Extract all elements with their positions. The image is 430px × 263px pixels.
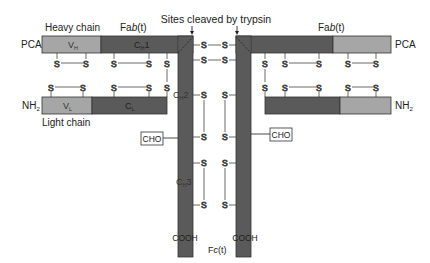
- svg-text:S: S: [201, 40, 207, 50]
- right-fab-label: Fab(t): [318, 22, 345, 33]
- left-fab-label: Fab(t): [120, 22, 147, 33]
- right-vl-domain: [340, 97, 391, 114]
- right-cooh-label: COOH: [232, 233, 258, 243]
- svg-text:S: S: [146, 83, 152, 93]
- svg-text:S: S: [222, 132, 228, 142]
- svg-text:S: S: [146, 59, 152, 69]
- svg-text:S: S: [282, 83, 288, 93]
- svg-text:S: S: [345, 83, 351, 93]
- svg-text:S: S: [222, 200, 228, 210]
- svg-text:S: S: [222, 158, 228, 168]
- right-cho-label: CHO: [272, 130, 291, 140]
- right-cl-domain: [265, 97, 340, 114]
- trypsin-arrow-right-icon: [235, 26, 239, 35]
- svg-text:S: S: [164, 59, 170, 69]
- right-heavy-stem: [236, 36, 251, 257]
- svg-text:S: S: [201, 90, 207, 100]
- svg-text:S: S: [282, 59, 288, 69]
- svg-text:S: S: [222, 90, 228, 100]
- svg-text:S: S: [201, 132, 207, 142]
- left-light-disulfides: SS SS: [48, 83, 152, 97]
- svg-text:S: S: [373, 83, 379, 93]
- svg-text:S: S: [111, 83, 117, 93]
- right-heavy-pca-label: PCA: [395, 39, 416, 50]
- right-light-disulfides: SS SS: [282, 83, 379, 97]
- svg-text:S: S: [222, 40, 228, 50]
- svg-text:S: S: [48, 83, 54, 93]
- left-heavy-stem: [178, 36, 193, 257]
- svg-text:S: S: [262, 59, 268, 69]
- svg-text:S: S: [83, 59, 89, 69]
- svg-text:S: S: [373, 59, 379, 69]
- left-heavy-pca-label: PCA: [21, 39, 42, 50]
- fc-label: Fc(t): [208, 245, 227, 255]
- trypsin-sites-title: Sites cleaved by trypsin: [161, 13, 271, 25]
- hinge-disulfides: S S S S: [193, 40, 236, 65]
- heavy-chain-label: Heavy chain: [45, 22, 100, 33]
- left-cooh-label: COOH: [172, 233, 198, 243]
- svg-text:S: S: [262, 83, 268, 93]
- svg-text:S: S: [345, 59, 351, 69]
- left-cho-label: CHO: [143, 134, 162, 144]
- trypsin-arrow-left-icon: [190, 26, 194, 35]
- right-light-nh2-label: NH2: [395, 100, 413, 112]
- right-vh-domain: [333, 36, 391, 53]
- antibody-structure-diagram: Sites cleaved by trypsin Heavy chain Fab…: [0, 0, 430, 263]
- svg-text:S: S: [316, 59, 322, 69]
- svg-text:S: S: [222, 55, 228, 65]
- svg-text:S: S: [201, 55, 207, 65]
- svg-text:S: S: [201, 158, 207, 168]
- left-light-nh2-label: NH2: [22, 100, 40, 112]
- svg-text:S: S: [201, 200, 207, 210]
- svg-text:S: S: [164, 83, 170, 93]
- svg-text:S: S: [316, 83, 322, 93]
- light-chain-label: Light chain: [42, 117, 90, 128]
- svg-text:S: S: [111, 59, 117, 69]
- svg-text:S: S: [54, 59, 60, 69]
- svg-text:S: S: [80, 83, 86, 93]
- fc-intrachain-disulfides: S S S S S S S S: [193, 90, 236, 210]
